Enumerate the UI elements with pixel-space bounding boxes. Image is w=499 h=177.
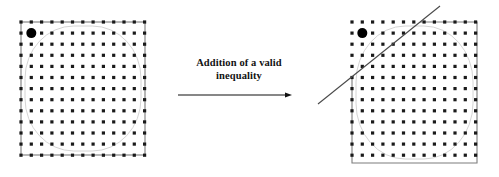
right-lattice-point [433, 65, 436, 68]
left-lattice-point [92, 109, 95, 112]
left-lattice-point [92, 20, 95, 23]
right-lattice-point [371, 154, 374, 157]
right-lattice-point [371, 65, 374, 68]
right-lattice-point [464, 32, 467, 35]
right-lattice-point [453, 76, 456, 79]
left-lattice-point [81, 131, 84, 134]
right-lattice-point [392, 98, 395, 101]
right-lattice-point [464, 143, 467, 146]
left-lattice-point [40, 87, 43, 90]
right-lattice-point [464, 65, 467, 68]
right-lattice-point [392, 154, 395, 157]
right-lattice-point [453, 43, 456, 46]
right-lattice-point [381, 109, 384, 112]
right-lattice-point [402, 20, 405, 23]
right-lattice-point [423, 54, 426, 57]
left-lattice-point [71, 87, 74, 90]
right-lattice-point [392, 32, 395, 35]
right-lattice-point [392, 143, 395, 146]
left-lattice-point [102, 109, 105, 112]
right-lattice-point [371, 54, 374, 57]
right-lattice-point [361, 109, 364, 112]
left-lattice-point [30, 87, 33, 90]
left-lattice-point [61, 131, 64, 134]
left-lattice-point [61, 98, 64, 101]
left-lattice-point [40, 98, 43, 101]
left-lattice-point [19, 76, 22, 79]
left-lattice-point [81, 54, 84, 57]
left-lattice-point [122, 65, 125, 68]
left-lattice-point [81, 87, 84, 90]
left-lattice-point [30, 154, 33, 157]
right-lattice-point [453, 109, 456, 112]
left-lattice-point [122, 131, 125, 134]
left-lattice-point [61, 20, 64, 23]
left-lattice-point [71, 65, 74, 68]
right-lattice-point [453, 20, 456, 23]
right-lattice-point [433, 143, 436, 146]
left-lattice-point [112, 143, 115, 146]
left-lattice-point [50, 143, 53, 146]
right-lattice-point [392, 131, 395, 134]
left-lattice-point [61, 87, 64, 90]
right-lattice-point [433, 76, 436, 79]
left-lattice-point [30, 54, 33, 57]
right-lattice-point [464, 109, 467, 112]
left-lattice-point [143, 143, 146, 146]
left-lattice-point [81, 76, 84, 79]
left-lattice-point [61, 120, 64, 123]
right-lattice-point [423, 143, 426, 146]
right-lattice-point [402, 131, 405, 134]
left-lattice-point [92, 43, 95, 46]
left-lattice-point [19, 109, 22, 112]
left-lattice-point [102, 32, 105, 35]
left-lattice-point [102, 76, 105, 79]
left-lattice-point [133, 54, 136, 57]
right-lattice-point [402, 76, 405, 79]
right-lattice-point [361, 20, 364, 23]
left-lattice-point [81, 154, 84, 157]
left-lattice-point [19, 54, 22, 57]
right-lattice-point [412, 109, 415, 112]
right-lattice-point [402, 54, 405, 57]
right-lattice-point [423, 120, 426, 123]
right-lattice-point [453, 87, 456, 90]
left-lattice-point [71, 20, 74, 23]
right-lattice-point [433, 120, 436, 123]
left-lattice-point [122, 87, 125, 90]
left-lattice-point [143, 98, 146, 101]
right-lattice-point [381, 87, 384, 90]
right-lattice-point [350, 154, 353, 157]
left-lattice-point [40, 54, 43, 57]
left-lattice-point [71, 98, 74, 101]
right-lattice-point [412, 32, 415, 35]
left-lattice-point [143, 154, 146, 157]
right-lattice-point [361, 120, 364, 123]
left-lattice-point [112, 109, 115, 112]
right-lattice-point [443, 65, 446, 68]
left-lattice-point [143, 32, 146, 35]
left-lattice-point [40, 76, 43, 79]
right-lattice-point [443, 76, 446, 79]
left-lattice-point [19, 65, 22, 68]
left-lattice-point [50, 43, 53, 46]
right-lattice-point [402, 143, 405, 146]
left-lattice-point [19, 131, 22, 134]
right-lattice-point [412, 120, 415, 123]
left-lattice-point [61, 43, 64, 46]
right-lattice-point [402, 43, 405, 46]
right-lattice-point [361, 87, 364, 90]
right-lattice-point [402, 32, 405, 35]
left-lattice-point [143, 54, 146, 57]
right-lattice-point [443, 98, 446, 101]
left-lattice-point [30, 131, 33, 134]
right-lattice-point [412, 154, 415, 157]
right-lattice-point [423, 109, 426, 112]
right-lattice-point [443, 54, 446, 57]
right-lattice-point [350, 98, 353, 101]
right-lattice-point [371, 98, 374, 101]
left-lattice-point [122, 43, 125, 46]
left-lattice-point [112, 98, 115, 101]
left-lattice-point [81, 143, 84, 146]
left-lattice-point [19, 154, 22, 157]
